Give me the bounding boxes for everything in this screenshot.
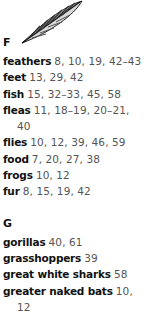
entry-pages: 10, 12, 39, 46, 59	[30, 136, 125, 148]
index-entry: fur 8, 15, 19, 42	[3, 183, 143, 199]
entry-term: feathers	[3, 55, 51, 67]
section-letter: G	[3, 217, 143, 231]
entry-term: great white sharks	[3, 268, 111, 280]
entry-pages: 13, 29, 42	[29, 71, 83, 83]
entry-pages: 40, 61	[49, 236, 83, 248]
entry-term: food	[3, 153, 29, 165]
entry-pages: 39	[84, 252, 98, 264]
entry-pages: 8, 15, 19, 42	[23, 185, 91, 197]
entry-term: greater naked bats	[3, 285, 113, 297]
entry-pages: 8, 10, 19, 42–43	[54, 55, 141, 67]
entry-pages: 58	[114, 268, 128, 280]
entry-term: fleas	[3, 104, 31, 116]
index-entry: flies 10, 12, 39, 46, 59	[3, 134, 143, 150]
index-entry: fish 15, 32–33, 45, 58	[3, 86, 143, 102]
entry-term: fur	[3, 185, 20, 197]
index-entry: feet 13, 29, 42	[3, 69, 143, 85]
index-section-f: F feathers 8, 10, 19, 42–43 feet 13, 29,…	[3, 36, 143, 200]
entry-term: fish	[3, 88, 24, 100]
index-entry: feathers 8, 10, 19, 42–43	[3, 53, 143, 69]
entry-term: flies	[3, 136, 27, 148]
index-entry: food 7, 20, 27, 38	[3, 151, 143, 167]
section-letter: F	[3, 36, 143, 50]
entry-pages: 10, 12	[36, 169, 70, 181]
index-entry: grasshoppers 39	[3, 250, 143, 266]
entry-term: gorillas	[3, 236, 45, 248]
index-entry: fleas 11, 18–19, 20–21, 40	[3, 102, 143, 135]
index-entry: frogs 10, 12	[3, 167, 143, 183]
index-list: F feathers 8, 10, 19, 42–43 feet 13, 29,…	[3, 36, 143, 315]
index-entry: great white sharks 58	[3, 266, 143, 282]
index-section-g: G gorillas 40, 61 grasshoppers 39 great …	[3, 217, 143, 315]
entry-term: frogs	[3, 169, 33, 181]
entry-term: feet	[3, 71, 26, 83]
entry-pages: 15, 32–33, 45, 58	[27, 88, 121, 100]
entry-pages: 7, 20, 27, 38	[32, 153, 100, 165]
index-entry: gorillas 40, 61	[3, 234, 143, 250]
entry-pages: 11, 18–19, 20–21, 40	[17, 104, 129, 132]
index-entry: greater naked bats 10, 12	[3, 283, 143, 316]
section-gap	[3, 200, 143, 217]
entry-term: grasshoppers	[3, 252, 81, 264]
